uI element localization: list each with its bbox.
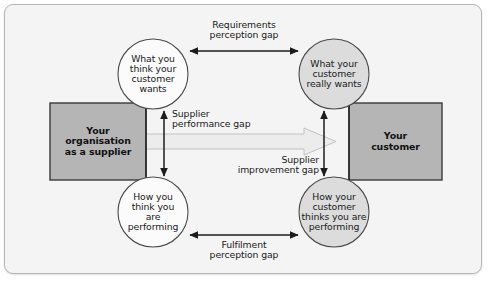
customer-box-shape [349, 103, 442, 180]
what-customer-really-wants-shape [299, 39, 369, 109]
what-you-think-customer-wants-shape [118, 39, 188, 109]
supplier-box-shape [50, 103, 146, 180]
diagram-canvas: Your organisation as a supplier Your cus… [0, 0, 491, 283]
diagram-graphics [0, 0, 491, 283]
how-you-think-you-are-performing-shape [118, 177, 188, 247]
how-customer-thinks-you-are-performing-shape [299, 177, 369, 247]
